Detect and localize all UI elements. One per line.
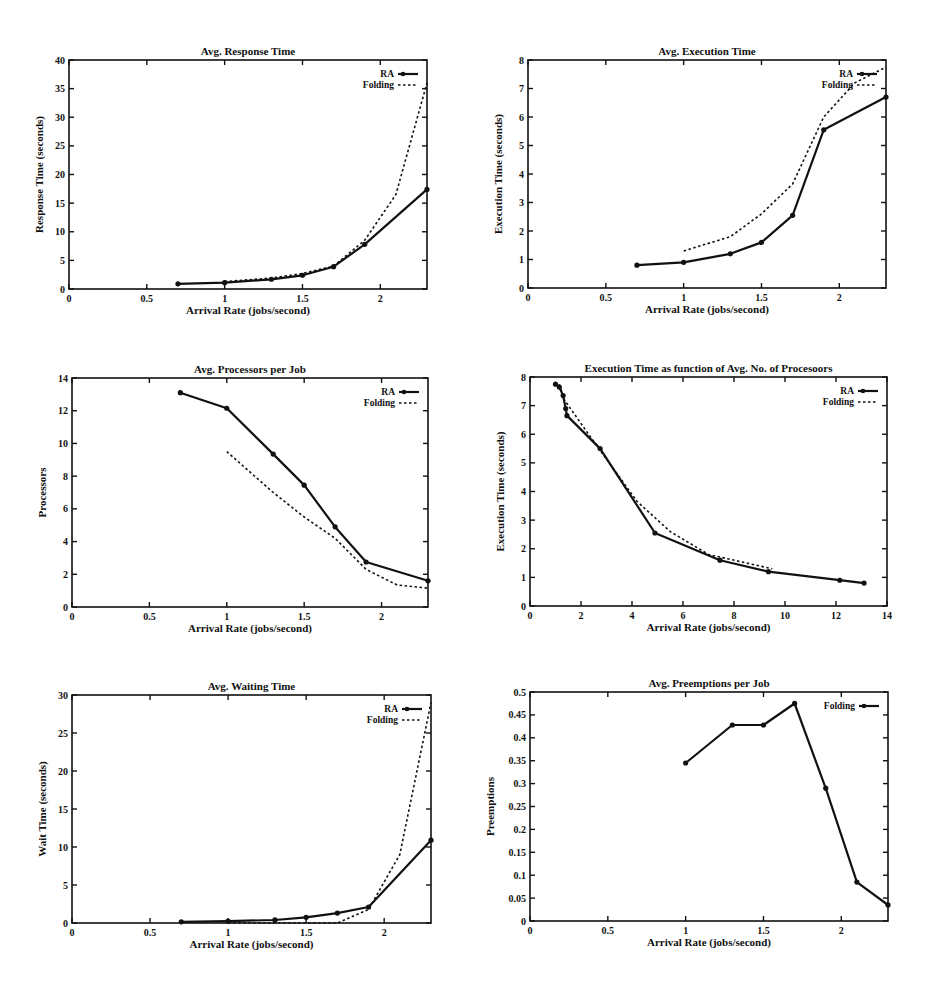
legend-label: RA — [380, 69, 394, 79]
x-tick-label: 0 — [528, 610, 533, 621]
x-tick-label: 2 — [382, 927, 387, 938]
y-axis-label: Execution Time (seconds) — [492, 114, 505, 234]
y-tick-label: 1 — [521, 572, 526, 583]
data-point-ra — [766, 569, 771, 574]
data-point-ra — [821, 127, 826, 132]
y-tick-label: 14 — [58, 373, 68, 384]
data-point-ra — [634, 263, 639, 268]
legend-marker — [860, 72, 865, 77]
chart-processors: Avg. Processors per Job00.511.5202468101… — [36, 363, 431, 635]
y-tick-label: 3 — [521, 515, 526, 526]
x-tick-label: 6 — [681, 610, 686, 621]
y-tick-label: 0.5 — [514, 687, 527, 698]
figure-panel: Avg. Response Time00.511.520510152025303… — [0, 0, 932, 994]
y-tick-label: 0 — [63, 602, 68, 613]
data-point-ra — [790, 213, 795, 218]
y-tick-label: 10 — [58, 842, 68, 853]
y-tick-label: 25 — [55, 140, 65, 151]
y-tick-label: 8 — [519, 55, 524, 66]
plot-frame — [530, 692, 888, 921]
series-line-folding — [559, 384, 772, 569]
legend-marker — [862, 704, 867, 709]
x-tick-label: 0 — [67, 293, 72, 304]
data-point-ra — [424, 187, 429, 192]
series-line-ra — [181, 840, 431, 922]
y-tick-label: 7 — [519, 83, 524, 94]
y-tick-label: 7 — [521, 400, 526, 411]
x-tick-label: 0.5 — [143, 611, 156, 622]
y-tick-label: 4 — [519, 169, 524, 180]
data-point-ra — [563, 406, 568, 411]
x-axis-label: Arrival Rate (jobs/second) — [645, 303, 769, 316]
x-axis-label: Arrival Rate (jobs/second) — [647, 936, 771, 949]
data-point-folding — [854, 879, 859, 884]
y-axis-label: Response Time (seconds) — [33, 116, 46, 233]
data-point-folding — [792, 701, 797, 706]
data-point-folding — [823, 786, 828, 791]
y-tick-label: 15 — [55, 198, 65, 209]
x-tick-label: 1.5 — [300, 927, 313, 938]
chart-title: Avg. Preemptions per Job — [649, 677, 770, 689]
y-tick-label: 0.15 — [509, 847, 527, 858]
data-point-folding — [761, 722, 766, 727]
y-tick-label: 15 — [58, 804, 68, 815]
legend-marker — [405, 707, 410, 712]
y-tick-label: 6 — [63, 503, 68, 514]
y-tick-label: 5 — [60, 255, 65, 266]
y-tick-label: 40 — [55, 55, 65, 66]
data-point-ra — [759, 240, 764, 245]
chart-title: Avg. Processors per Job — [194, 363, 306, 375]
x-axis-label: Arrival Rate (jobs/second) — [188, 622, 312, 635]
x-tick-label: 0 — [70, 611, 75, 622]
x-tick-label: 0.5 — [600, 292, 613, 303]
y-tick-label: 2 — [519, 226, 524, 237]
legend-label: RA — [839, 69, 853, 79]
x-tick-label: 0.5 — [602, 925, 615, 936]
y-tick-label: 5 — [519, 140, 524, 151]
y-tick-label: 4 — [63, 536, 68, 547]
plot-frame — [528, 60, 886, 288]
legend-marker — [861, 389, 866, 394]
y-tick-label: 0.1 — [514, 870, 527, 881]
x-tick-label: 1 — [222, 293, 227, 304]
chart-title: Avg. Waiting Time — [208, 680, 296, 692]
y-tick-label: 0 — [519, 283, 524, 294]
y-tick-label: 0.05 — [509, 893, 527, 904]
data-point-ra — [333, 524, 338, 529]
x-tick-label: 2 — [579, 610, 584, 621]
y-tick-label: 4 — [521, 486, 526, 497]
x-tick-label: 0 — [528, 925, 533, 936]
y-tick-label: 1 — [519, 254, 524, 265]
legend-label: RA — [840, 386, 854, 396]
chart-preemptions: Avg. Preemptions per Job00.511.5200.050.… — [484, 677, 891, 949]
y-tick-label: 3 — [519, 197, 524, 208]
x-axis-label: Arrival Rate (jobs/second) — [646, 621, 770, 634]
y-tick-label: 30 — [55, 112, 65, 123]
x-tick-label: 1.5 — [296, 293, 309, 304]
data-point-ra — [304, 915, 309, 920]
legend-label: Folding — [823, 397, 854, 407]
data-point-ra — [175, 281, 180, 286]
data-point-ra — [728, 251, 733, 256]
x-tick-label: 4 — [630, 610, 635, 621]
chart-execution: Avg. Execution Time00.511.52012345678Arr… — [492, 45, 889, 316]
x-tick-label: 2 — [837, 292, 842, 303]
y-tick-label: 30 — [58, 690, 68, 701]
chart-waiting: Avg. Waiting Time00.511.52051015202530Ar… — [36, 680, 434, 951]
x-tick-label: 12 — [831, 610, 841, 621]
data-point-ra — [428, 838, 433, 843]
y-tick-label: 0 — [60, 284, 65, 295]
x-tick-label: 1 — [224, 611, 229, 622]
y-axis-label: Execution Time (seconds) — [494, 431, 507, 551]
series-line-folding — [225, 83, 427, 282]
series-line-folding — [228, 703, 431, 923]
y-tick-label: 6 — [519, 112, 524, 123]
y-tick-label: 0 — [63, 918, 68, 929]
y-tick-label: 8 — [63, 471, 68, 482]
x-tick-label: 8 — [732, 610, 737, 621]
y-tick-label: 2 — [521, 543, 526, 554]
data-point-ra — [272, 917, 277, 922]
x-tick-label: 2 — [379, 611, 384, 622]
x-tick-label: 1.5 — [757, 925, 770, 936]
y-tick-label: 6 — [521, 429, 526, 440]
